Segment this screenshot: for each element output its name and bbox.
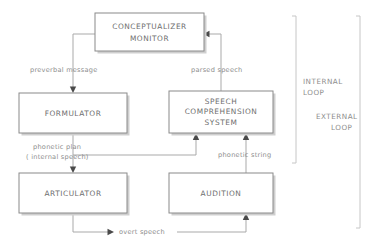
formulator-box-label: FORMULATOR — [45, 109, 102, 118]
external-loop-bracket — [356, 16, 360, 228]
edge-internal-speech — [73, 133, 199, 155]
articulator-box[interactable]: ARTICULATOR — [19, 173, 130, 216]
speech-comprehension-system-box[interactable]: SPEECH COMPREHENSION SYSTEM — [169, 91, 276, 136]
edge-overt-speech-left-path — [73, 213, 109, 232]
speech-model-diagram: CONCEPTUALIZER MONITOR FORMULATOR SPEECH… — [0, 0, 374, 243]
edge-label-phonetic-plan: phonetic plan — [33, 143, 81, 151]
conceptualizer-box-label-line-2: MONITOR — [130, 34, 169, 43]
edge-overt-speech-arrowhead — [108, 229, 115, 235]
loop-layer: INTERNAL LOOP EXTERNAL LOOP — [292, 16, 360, 228]
internal-loop-bracket — [292, 16, 296, 163]
edge-phonetic-plan-arrowhead — [70, 167, 76, 174]
diagram-canvas: CONCEPTUALIZER MONITOR FORMULATOR SPEECH… — [0, 0, 374, 243]
edge-preverbal-message — [70, 34, 95, 93]
external-loop-label-line-2: LOOP — [331, 123, 353, 132]
edge-internal-speech-path — [73, 140, 196, 155]
edge-preverbal-arrowhead — [70, 87, 76, 94]
edge-parsed-path — [207, 34, 221, 91]
internal-loop-label-line-1: INTERNAL — [303, 77, 343, 86]
formulator-box[interactable]: FORMULATOR — [19, 93, 130, 136]
edge-preverbal-path — [73, 34, 95, 88]
edge-label-parsed-speech: parsed speech — [191, 66, 243, 74]
box-layer: CONCEPTUALIZER MONITOR FORMULATOR SPEECH… — [19, 13, 276, 216]
edge-label-internal-speech: ( internal speech) — [26, 153, 89, 161]
speech-comprehension-label-line-2: COMPREHENSION — [185, 107, 258, 116]
edge-label-overt-speech: overt speech — [119, 228, 165, 236]
speech-comprehension-label-line-1: SPEECH — [205, 97, 238, 106]
audition-box[interactable]: AUDITION — [169, 173, 276, 216]
edge-label-preverbal-message: preverbal message — [30, 66, 98, 74]
edge-overt-speech-right-path — [177, 220, 246, 232]
external-loop-label-line-1: EXTERNAL — [316, 112, 358, 121]
conceptualizer-monitor-box[interactable]: CONCEPTUALIZER MONITOR — [95, 13, 207, 54]
audition-box-label: AUDITION — [201, 189, 242, 198]
internal-loop-label-line-2: LOOP — [303, 88, 325, 97]
conceptualizer-box-frame — [95, 13, 204, 51]
edge-label-phonetic-string: phonetic string — [218, 151, 271, 159]
speech-comprehension-label-line-3: SYSTEM — [205, 118, 238, 127]
conceptualizer-box-label-line-1: CONCEPTUALIZER — [112, 22, 187, 31]
articulator-box-label: ARTICULATOR — [44, 189, 101, 198]
